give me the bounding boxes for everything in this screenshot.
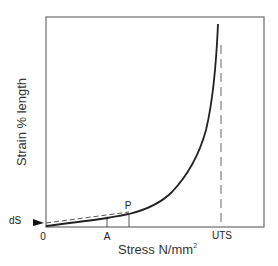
tick-uts-label: UTS: [212, 230, 232, 241]
origin-label: 0: [40, 231, 46, 242]
x-axis-label-main: Stress N/mm: [118, 242, 193, 257]
y-axis-label: Strain % length: [14, 78, 29, 166]
x-axis-label-superscript: 2: [193, 242, 197, 249]
ds-label: dS: [9, 215, 22, 226]
x-axis-label: Stress N/mm2: [118, 242, 197, 257]
strain-curve: [46, 24, 218, 226]
tick-p-label: P: [125, 200, 132, 211]
ds-arrow-icon: [33, 219, 44, 226]
strain-stress-chart: Strain % length 0 A P UTS dS Stress N/mm…: [0, 0, 278, 266]
plot-frame: [46, 17, 264, 227]
tick-a-label: A: [104, 231, 111, 242]
point-a-marker: [106, 217, 109, 220]
